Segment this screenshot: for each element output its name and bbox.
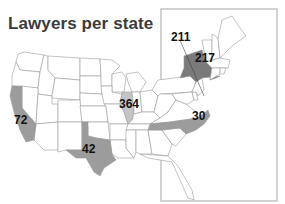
state-utah[interactable]: [36, 94, 58, 124]
state-arkansas[interactable]: [110, 124, 128, 140]
us-map: 72 42 364 217 30 211: [0, 0, 285, 204]
state-florida[interactable]: [140, 154, 194, 200]
state-wisconsin[interactable]: [112, 72, 126, 92]
state-arizona[interactable]: [34, 122, 58, 150]
state-new-mexico[interactable]: [58, 122, 82, 152]
state-washington[interactable]: [16, 52, 44, 72]
label-district-of-columbia: 211: [171, 30, 191, 44]
state-maine[interactable]: [218, 16, 246, 58]
label-california: 72: [14, 113, 28, 127]
label-new-york: 217: [195, 51, 215, 65]
state-south-dakota[interactable]: [80, 76, 102, 94]
state-michigan[interactable]: [126, 72, 146, 92]
label-north-carolina: 30: [192, 109, 206, 123]
label-texas: 42: [82, 142, 96, 156]
state-kansas[interactable]: [80, 106, 108, 122]
state-colorado[interactable]: [58, 100, 82, 122]
state-north-dakota[interactable]: [80, 58, 101, 76]
state-wyoming[interactable]: [52, 78, 80, 100]
label-illinois: 364: [119, 97, 139, 111]
state-rhode-island[interactable]: [220, 68, 226, 74]
